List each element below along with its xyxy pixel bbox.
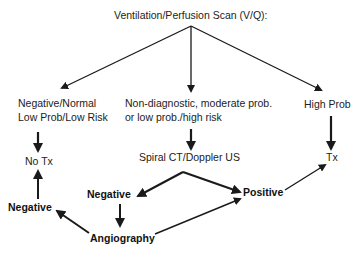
node-positive: Positive bbox=[243, 186, 283, 199]
arrow-vq-to-negative-normal bbox=[62, 26, 191, 88]
arrow-angiography-to-negative-left bbox=[57, 211, 89, 233]
node-tx: Tx bbox=[326, 151, 338, 164]
flow-arrows bbox=[0, 0, 362, 256]
node-spiral-ct: Spiral CT/Doppler US bbox=[139, 151, 240, 164]
arrow-positive-to-tx bbox=[285, 165, 325, 190]
arrow-spiral-ct-to-negative bbox=[138, 172, 183, 196]
node-nondiagnostic-line2: or low prob./high risk bbox=[125, 111, 222, 124]
node-nondiagnostic-line1: Non-diagnostic, moderate prob. bbox=[125, 97, 272, 110]
node-angiography: Angiography bbox=[90, 232, 155, 245]
arrow-spiral-ct-to-positive bbox=[183, 172, 240, 192]
node-no-tx: No Tx bbox=[25, 155, 53, 168]
node-negative-mid: Negative bbox=[87, 188, 131, 201]
arrow-angiography-to-positive bbox=[155, 199, 240, 234]
node-negative-normal-line1: Negative/Normal bbox=[18, 97, 96, 110]
diagram-title: Ventilation/Perfusion Scan (V/Q): bbox=[114, 9, 268, 22]
node-high-prob: High Prob bbox=[304, 98, 351, 111]
node-negative-left: Negative bbox=[8, 201, 52, 214]
node-negative-normal-line2: Low Prob/Low Risk bbox=[18, 111, 108, 124]
arrow-vq-to-high-prob bbox=[191, 26, 321, 90]
